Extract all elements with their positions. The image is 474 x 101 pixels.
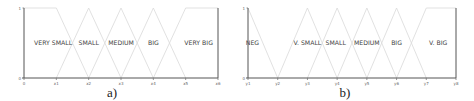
x-tick-label: y2 [275, 81, 280, 86]
term-label: BIG [148, 39, 159, 46]
caption-a: a) [107, 85, 117, 100]
term-label: V. BIG [429, 39, 447, 46]
x-tick-label: y6 [394, 81, 399, 86]
x-tick-label: y3 [305, 81, 310, 86]
x-tick-label: y1 [246, 81, 251, 86]
x-tick-label: 0 [23, 81, 26, 86]
term-label: SMALL [325, 39, 346, 46]
term-label: BIG [391, 39, 402, 46]
caption-b: b) [340, 85, 351, 100]
term-label: SMALL [78, 39, 99, 46]
y-tick-label: 1 [18, 6, 21, 11]
term-label: MEDIUM [108, 39, 134, 46]
term-label: VERY BIG [184, 39, 213, 46]
chart-a: 100x1x2x3x4x5x6VERY SMALLSMALLMEDIUMBIGV… [18, 6, 220, 86]
x-tick-label: x3 [119, 81, 124, 86]
term-label: MEDIUM [354, 39, 380, 46]
term-label: NEG [246, 39, 260, 46]
figure: 100x1x2x3x4x5x6VERY SMALLSMALLMEDIUMBIGV… [0, 0, 474, 101]
x-tick-label: x5 [183, 81, 188, 86]
y-tick-label: 1 [242, 6, 245, 11]
x-tick-label: y7 [424, 81, 429, 86]
x-tick-label: x2 [86, 81, 91, 86]
x-tick-label: y8 [454, 81, 459, 86]
x-tick-label: x1 [54, 81, 59, 86]
y-tick-label: 0 [18, 76, 21, 81]
x-tick-label: y5 [364, 81, 369, 86]
term-label: VERY SMALL [34, 39, 73, 46]
x-tick-label: x6 [216, 81, 221, 86]
x-tick-label: x4 [151, 81, 156, 86]
chart-b: 10y1y2y3y4y5y6y7y8NEGV. SMALLSMALLMEDIUM… [242, 6, 458, 86]
term-label: V. SMALL [294, 39, 322, 46]
